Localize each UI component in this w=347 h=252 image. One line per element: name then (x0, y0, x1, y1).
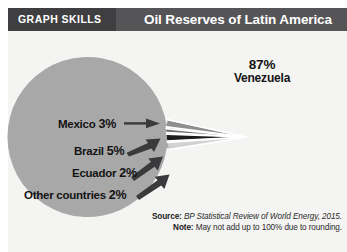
callout-percent-brazil: 5% (107, 144, 125, 158)
source-label: Source: (152, 212, 182, 221)
callout-label-ecuador: Ecuador 2% (72, 167, 137, 180)
venezuela-percent-value: 87% (218, 57, 306, 72)
callout-name-other-countries: Other countries (24, 189, 106, 201)
callout-name-brazil: Brazil (74, 145, 104, 157)
source-line: Source: BP Statistical Review of World E… (120, 211, 342, 222)
note-text: May not add up to 100% due to rounding. (196, 223, 342, 232)
callout-percent-other-countries: 2% (109, 188, 127, 202)
callout-label-mexico: Mexico 3% (58, 118, 116, 131)
callout-name-mexico: Mexico (58, 118, 96, 130)
graph-skills-pie-chart-figure: GRAPH SKILLS Oil Reserves of Latin Ameri… (0, 0, 347, 252)
callout-label-brazil: Brazil 5% (74, 145, 124, 158)
note-line: Note: May not add up to 100% due to roun… (120, 222, 342, 233)
callout-name-ecuador: Ecuador (72, 167, 116, 179)
note-label: Note: (173, 223, 193, 232)
callout-percent-mexico: 3% (98, 117, 116, 131)
source-text: BP Statistical Review of World Energy, 2… (184, 212, 342, 221)
venezuela-name-label: Venezuela (218, 72, 306, 85)
figure-footnotes: Source: BP Statistical Review of World E… (120, 211, 342, 233)
callout-label-other-countries: Other countries 2% (24, 189, 126, 202)
pie-center-label: 87% Venezuela (218, 57, 306, 86)
callout-percent-ecuador: 2% (119, 166, 137, 180)
